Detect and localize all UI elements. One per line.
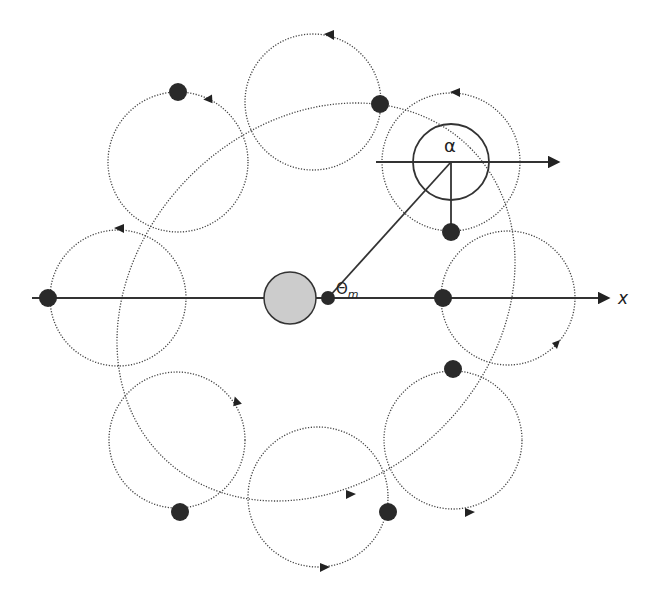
arrow-icon [320, 563, 330, 572]
epicycle-lower-left [109, 372, 245, 508]
arrow-icon [114, 224, 124, 233]
orbiting-bodies [39, 83, 462, 521]
arrow-icon [552, 340, 560, 349]
arrow-icon [450, 88, 460, 97]
theta-m-label: Θm [336, 280, 359, 301]
epicycle-diagram: x Θm α [0, 0, 658, 593]
arrow-icon [324, 30, 334, 40]
body-lower-right [444, 360, 462, 378]
body-upper-right [442, 223, 460, 241]
radius-line [328, 162, 451, 298]
body-top [371, 95, 389, 113]
central-body [264, 272, 316, 324]
body-right [434, 289, 452, 307]
arrow-icon [465, 508, 475, 517]
epicycle-upper-left [108, 92, 248, 232]
alpha-label: α [444, 135, 456, 156]
body-left [39, 289, 57, 307]
epicycle-bottom [248, 427, 388, 567]
x-axis-label: x [617, 288, 629, 308]
focus-dot [321, 291, 335, 305]
direction-arrows [114, 30, 560, 572]
body-bottom [379, 503, 397, 521]
arrow-icon [346, 490, 356, 499]
body-lower-left [171, 503, 189, 521]
arrow-icon [203, 94, 216, 106]
epicycle-lower-right [384, 371, 522, 509]
body-upper-left [169, 83, 187, 101]
epicycle-top [245, 34, 381, 170]
